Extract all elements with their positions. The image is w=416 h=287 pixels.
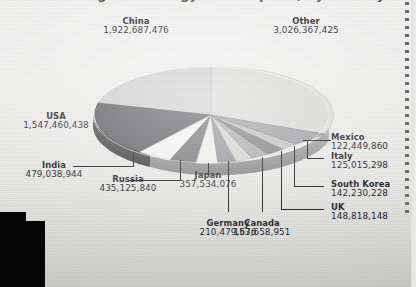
leader-uk [281,151,324,209]
label-china: China 1,922,687,476 [71,17,201,36]
label-south-korea: South Korea 142,230,228 [331,180,415,199]
label-italy-value: 125,015,298 [331,161,413,171]
label-japan: Japan 357,534,076 [158,171,258,190]
leader-italy [307,141,324,158]
label-usa-value: 1,547,460,438 [3,121,109,131]
label-uk: UK 148,818,148 [331,203,413,222]
label-china-value: 1,922,687,476 [71,26,201,36]
label-other: Other 3,026,367,425 [241,17,371,36]
label-south-korea-value: 142,230,228 [331,189,415,199]
label-italy: Italy 125,015,298 [331,152,413,171]
label-mexico: Mexico 122,449,860 [331,133,413,152]
label-canada-value: 153,658,951 [212,228,312,238]
label-uk-value: 148,818,148 [331,212,413,222]
black-block-lower [0,221,45,287]
leader-south-korea [294,146,324,186]
label-japan-value: 357,534,076 [158,180,258,190]
pie-chart: China 1,922,687,476 Other 3,026,367,425 … [0,0,416,287]
label-other-value: 3,026,367,425 [241,26,371,36]
page-right-edge [411,0,416,287]
label-usa: USA 1,547,460,438 [3,112,109,131]
label-canada: Canada 153,658,951 [212,219,312,238]
scanned-page: Share of global energy consumption, by c… [0,0,416,287]
perforation-dotted-line [405,2,409,216]
